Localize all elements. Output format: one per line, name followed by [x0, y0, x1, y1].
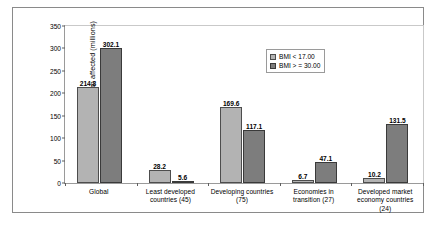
x-axis-label-line: (75) — [206, 196, 278, 204]
bar-value-label: 5.6 — [178, 174, 187, 181]
x-axis-label: Least developedcountries (45) — [135, 188, 207, 205]
bar-group: 28.25.6 — [137, 26, 209, 183]
x-axis-label-line: Developing countries — [206, 188, 278, 196]
plot-area: Population affected (millions) 050100150… — [64, 25, 424, 184]
legend-swatch-light-icon — [270, 54, 276, 60]
bar-value-label: 169.6 — [223, 100, 240, 107]
x-axis-label: Economies intransition (27) — [278, 188, 350, 205]
x-axis-label-line: Least developed — [135, 188, 207, 196]
bar-value-label: 10.2 — [368, 171, 381, 178]
bar: 214.8 — [77, 87, 99, 183]
bar: 5.6 — [172, 181, 194, 184]
bar: 10.2 — [363, 178, 385, 183]
bar-chart-figure: Population affected (millions) 050100150… — [0, 0, 435, 229]
x-axis-label-line: transition (27) — [278, 196, 350, 204]
bar-value-label: 117.1 — [246, 123, 262, 130]
bars-layer: 214.8302.128.25.6169.6117.16.747.110.213… — [65, 26, 423, 183]
legend-item-0: BMI < 17.00 — [270, 52, 320, 61]
bar-group: 10.2131.5 — [351, 26, 423, 183]
x-axis-label-line: Developed market — [349, 188, 421, 196]
x-axis-tick-mark — [351, 183, 352, 186]
bar-value-label: 131.5 — [389, 117, 406, 124]
bar-group: 214.8302.1 — [65, 26, 137, 183]
x-axis-tick-mark — [137, 183, 138, 186]
legend-label-1: BMI > = 30.00 — [279, 62, 320, 69]
bar: 117.1 — [243, 130, 265, 183]
x-axis-label: Developing countries(75) — [206, 188, 278, 205]
bar: 169.6 — [220, 107, 242, 183]
x-axis-label-line: countries (45) — [135, 196, 207, 204]
bar: 47.1 — [315, 162, 337, 183]
x-axis-tick-mark — [280, 183, 281, 186]
x-axis-tick-mark — [208, 183, 209, 186]
bar: 28.2 — [149, 170, 171, 183]
bar-value-label: 28.2 — [153, 163, 166, 170]
legend-item-1: BMI > = 30.00 — [270, 61, 320, 70]
bar-value-label: 47.1 — [319, 155, 332, 162]
x-axis-label-line: economy countries — [349, 196, 421, 204]
bar-value-label: 6.7 — [298, 173, 307, 180]
x-axis-label-line: Economies in — [278, 188, 350, 196]
bar: 302.1 — [100, 48, 122, 184]
x-axis-label-line: Global — [63, 188, 135, 196]
x-axis-tick-mark — [423, 183, 424, 186]
x-axis-label: Developed marketeconomy countries(24) — [349, 188, 421, 213]
bar-value-label: 214.8 — [80, 80, 97, 87]
legend-swatch-dark-icon — [270, 63, 276, 69]
bar: 131.5 — [386, 124, 408, 183]
x-axis-label-line: (24) — [349, 205, 421, 213]
chart-outer-frame: Population affected (millions) 050100150… — [12, 7, 424, 213]
bar: 6.7 — [292, 180, 314, 183]
legend-label-0: BMI < 17.00 — [279, 53, 315, 60]
legend: BMI < 17.00 BMI > = 30.00 — [266, 49, 325, 73]
x-axis-tick-mark — [65, 183, 66, 186]
bar-value-label: 302.1 — [103, 41, 120, 48]
x-axis-label: Global — [63, 188, 135, 196]
